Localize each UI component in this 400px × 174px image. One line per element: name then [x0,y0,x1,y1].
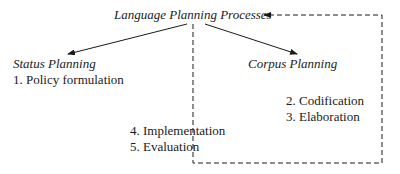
root-node-language-planning-processes: Language Planning Processes [114,8,272,22]
node-status-planning: Status Planning [13,57,96,71]
item-policy-formulation: 1. Policy formulation [13,73,124,87]
arrow-to-status-planning [68,24,187,54]
item-codification: 2. Codification [286,94,364,108]
item-implementation: 4. Implementation [130,124,225,138]
arrow-to-corpus-planning [205,24,297,54]
feedback-loop-dashed [193,15,382,163]
connector-lines [0,0,400,174]
item-evaluation: 5. Evaluation [130,140,199,154]
node-corpus-planning: Corpus Planning [248,57,337,71]
item-elaboration: 3. Elaboration [286,110,360,124]
